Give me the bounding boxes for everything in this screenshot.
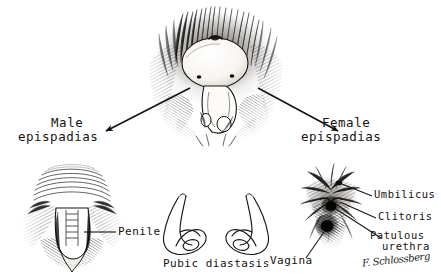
central-exstrophy-figure [150, 7, 283, 146]
male-epispadias-figure [23, 165, 122, 279]
label-female-epispadias-line1: Female [311, 116, 381, 130]
label-male-epispadias-line2: epispadias [18, 130, 98, 144]
pubic-diastasis-figure [164, 194, 269, 255]
illustration-canvas: Male epispadias Female epispadias Penile… [0, 0, 441, 280]
label-male-epispadias: Male epispadias [36, 116, 98, 143]
label-patulous-urethra: Patulous urethra [370, 230, 430, 253]
label-pubic-diastasis: Pubic diastasis [163, 258, 270, 270]
label-clitoris: Clitoris [378, 211, 433, 222]
label-female-epispadias: Female epispadias [311, 116, 381, 143]
label-umbilicus: Umbilicus [374, 189, 435, 200]
female-epispadias-figure [301, 164, 361, 254]
label-penile: Penile [118, 226, 161, 238]
label-vagina: Vagina [270, 255, 313, 267]
label-female-epispadias-line2: epispadias [301, 130, 381, 144]
label-male-epispadias-line1: Male [36, 116, 98, 130]
